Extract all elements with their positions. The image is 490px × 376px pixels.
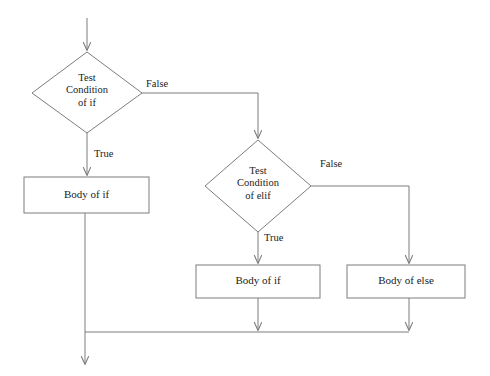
process-body-else-shape [347, 265, 465, 298]
decision-elif-shape [205, 140, 311, 232]
decision-if-shape [32, 52, 142, 133]
flowchart-canvas: Test Condition of if Body of if Test Con… [0, 0, 490, 376]
if-false-connector [142, 93, 258, 138]
process-body-if-true-shape [24, 177, 149, 213]
flowchart-svg [0, 0, 490, 376]
elif-false-connector [311, 186, 409, 263]
process-body-elif-shape [196, 265, 320, 298]
